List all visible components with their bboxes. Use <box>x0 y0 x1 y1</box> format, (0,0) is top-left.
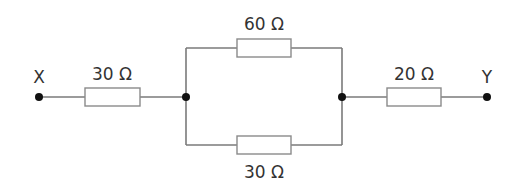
terminal-x-label: X <box>33 67 45 87</box>
resistor-r1-label: 30 Ω <box>92 64 132 84</box>
resistor-r2-label: 60 Ω <box>244 14 284 34</box>
circuit-diagram: X Y 30 Ω 60 Ω 30 Ω 20 Ω <box>0 0 531 195</box>
junction-right-node <box>338 93 346 101</box>
terminal-x-node <box>35 93 43 101</box>
resistor-r3-label: 30 Ω <box>244 162 284 182</box>
resistor-r4 <box>387 88 441 106</box>
resistor-r4-label: 20 Ω <box>394 64 434 84</box>
terminal-y-label: Y <box>481 67 493 87</box>
resistor-r3 <box>237 136 291 154</box>
resistor-r2 <box>237 39 291 57</box>
junction-left-node <box>182 93 190 101</box>
resistor-r1 <box>85 88 140 106</box>
terminal-y-node <box>483 93 491 101</box>
